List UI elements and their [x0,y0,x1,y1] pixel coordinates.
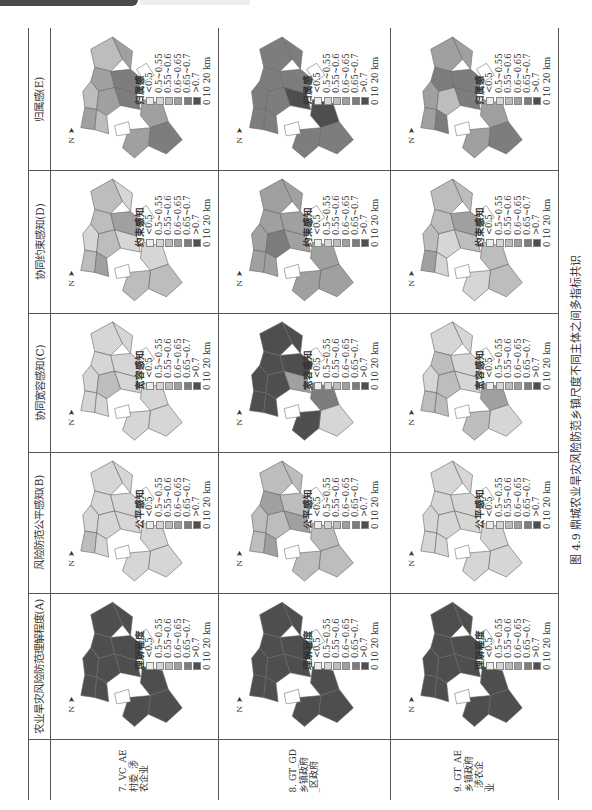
legend-item: >0.7 [532,53,541,105]
scale-bar: 0 10 20 km [543,338,552,390]
north-arrow-icon: N ➤ [235,270,244,287]
legend-swatch [505,662,513,670]
legend-swatch [496,239,504,247]
map-cell-b-7: N ➤公平感知<0.50.5~0.550.55~0.60.6~0.650.65~… [51,453,218,593]
indicator-header-text: 归属感(E) [32,76,47,122]
legend-title: 约束感知 [303,195,312,247]
legend-swatch [486,97,494,105]
north-arrow-icon: N ➤ [67,696,76,713]
legend-item: >0.7 [192,618,201,670]
legend-swatch [324,97,332,105]
legend-swatch [533,521,541,529]
legend-swatch [314,382,322,390]
legend-title: 宽容感知 [303,338,312,390]
north-arrow-icon: N ➤ [407,409,416,426]
map-legend: 理解程度<0.50.5~0.550.55~0.60.6~0.650.65~0.7… [135,618,212,670]
legend-title: 约束感知 [135,195,144,247]
legend-label: >0.7 [192,214,201,235]
scale-bar: 0 10 20 km [543,53,552,105]
legend-swatch [174,97,182,105]
legend-swatch [505,382,513,390]
scale-bar: 0 10 20 km [203,618,212,670]
legend-swatch [333,97,341,105]
legend-item: >0.7 [192,338,201,390]
north-arrow-icon: N ➤ [235,409,244,426]
map-cell-a-8: N ➤理解程度<0.50.5~0.550.55~0.60.6~0.650.65~… [219,594,390,739]
legend-swatch [165,521,173,529]
scale-bar: 0 10 20 km [371,618,380,670]
legend-title: 理解程度 [475,618,484,670]
legend-swatch [193,239,201,247]
legend-title: 宽容感知 [135,338,144,390]
legend-item: >0.7 [532,618,541,670]
scale-bar: 0 10 20 km [203,477,212,529]
legend-swatch [193,97,201,105]
legend-item: >0.7 [360,477,369,529]
group-label-line: _区政府 [309,749,320,793]
legend-swatch [514,521,522,529]
legend-label: >0.7 [532,637,541,658]
legend-swatch [174,521,182,529]
legend-item: >0.7 [532,195,541,247]
legend-item: >0.7 [192,195,201,247]
legend-swatch [486,239,494,247]
legend-swatch [496,662,504,670]
legend-swatch [146,662,154,670]
map-legend: 约束感知<0.50.5~0.550.55~0.60.6~0.650.65~0.7… [303,195,380,247]
group-label-9: 9. GT_AE 乡镇政府 _涉农企 业 [390,742,558,800]
scale-bar: 0 10 20 km [543,618,552,670]
legend-swatch [533,382,541,390]
legend-swatch [514,662,522,670]
map-cell-c-8: N ➤宽容感知<0.50.5~0.550.55~0.60.6~0.650.65~… [219,314,390,452]
map-legend: 公平感知<0.50.5~0.550.55~0.60.6~0.650.65~0.7… [303,477,380,529]
map-cell-d-9: N ➤约束感知<0.50.5~0.550.55~0.60.6~0.650.65~… [391,171,558,313]
north-arrow-icon: N ➤ [407,696,416,713]
legend-swatch [505,97,513,105]
legend-label: >0.7 [360,357,369,378]
legend-label: >0.7 [360,72,369,93]
legend-item: >0.7 [532,477,541,529]
legend-swatch [514,382,522,390]
legend-swatch [184,97,192,105]
legend-title: 归属感 [135,53,144,105]
indicator-divider-5 [28,739,559,740]
scale-bar: 0 10 20 km [203,195,212,247]
legend-swatch [352,382,360,390]
legend-swatch [496,97,504,105]
legend-swatch [496,382,504,390]
map-legend: 宽容感知<0.50.5~0.550.55~0.60.6~0.650.65~0.7… [303,338,380,390]
indicator-header-text: 农业旱灾风险防范理解程度(A) [32,598,47,734]
legend-swatch [165,97,173,105]
legend-label: >0.7 [532,496,541,517]
legend-swatch [146,521,154,529]
legend-swatch [533,97,541,105]
legend-swatch [514,97,522,105]
map-legend: 归属感<0.50.5~0.550.55~0.60.6~0.650.65~0.7>… [303,53,380,105]
legend-swatch [486,521,494,529]
legend-item: >0.7 [532,338,541,390]
indicator-header-c: 协同宽容感知(C) [28,313,50,452]
legend-swatch [342,382,350,390]
scale-bar: 0 10 20 km [203,338,212,390]
legend-title: 归属感 [303,53,312,105]
legend-swatch [174,239,182,247]
north-arrow-icon: N ➤ [67,270,76,287]
legend-swatch [533,239,541,247]
legend-swatch [352,662,360,670]
legend-swatch [324,382,332,390]
legend-swatch [156,521,164,529]
legend-item: >0.7 [192,53,201,105]
group-label-7: 7. VC_AE 村委_涉 农企业 [50,742,218,800]
legend-swatch [165,662,173,670]
legend-label: >0.7 [532,72,541,93]
legend-swatch [324,521,332,529]
legend-swatch [361,239,369,247]
map-legend: 约束感知<0.50.5~0.550.55~0.60.6~0.650.65~0.7… [475,195,552,247]
north-arrow-icon: N ➤ [235,696,244,713]
legend-swatch [361,382,369,390]
legend-swatch [193,382,201,390]
legend-label: >0.7 [532,214,541,235]
legend-item: >0.7 [360,53,369,105]
map-cell-c-7: N ➤宽容感知<0.50.5~0.550.55~0.60.6~0.650.65~… [51,314,218,452]
legend-swatch [524,382,532,390]
